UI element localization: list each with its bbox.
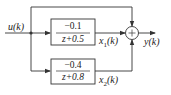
lower-denominator: z+0.8 [52,73,94,83]
upper-denominator: z+0.5 [52,35,94,45]
x2-arg: (k) [107,74,118,85]
x1-arg: (k) [107,35,118,46]
output-label: y(k) [144,37,160,47]
upper-numerator: −0.1 [52,22,94,32]
input-label: u(k) [8,22,24,32]
x2-label: x2(k) [99,75,118,88]
x1-label: x1(k) [99,36,118,49]
lower-numerator: −0.4 [52,61,94,71]
lower-input-arrow [31,33,50,71]
